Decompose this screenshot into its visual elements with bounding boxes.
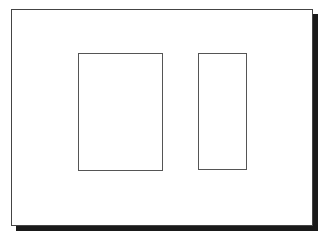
right-panel xyxy=(198,53,247,170)
left-panel xyxy=(78,53,163,171)
